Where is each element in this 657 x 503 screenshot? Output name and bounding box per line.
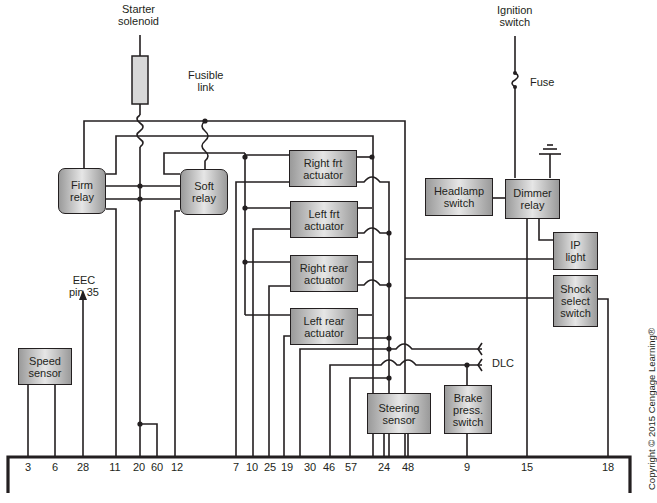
- dimmer-relay: Dimmer relay: [505, 179, 560, 219]
- pin-label: 3: [16, 461, 40, 473]
- pin-label: 48: [396, 461, 420, 473]
- left-rear-actuator: Left rear actuator: [290, 308, 358, 345]
- pin-label: 9: [455, 461, 479, 473]
- fusible-link-element: [132, 56, 148, 104]
- eec-pin-label: EEC pin 35: [69, 274, 99, 298]
- copyright-notice: Copyright © 2015 Cengage Learning®: [646, 328, 657, 490]
- firm-relay: Firm relay: [58, 168, 106, 214]
- right-rear-actuator: Right rear actuator: [290, 255, 358, 292]
- speed-sensor: Speed sensor: [18, 348, 72, 385]
- pin-label: 24: [372, 461, 396, 473]
- pin-label: 18: [596, 461, 620, 473]
- fuse-icon: [512, 73, 518, 87]
- fusible-link-icon: [137, 115, 143, 147]
- dlc-label: DLC: [492, 357, 514, 369]
- pin-label: 19: [275, 461, 299, 473]
- pin-label: 6: [43, 461, 67, 473]
- right-frt-actuator: Right frt actuator: [289, 150, 357, 187]
- fuse-label: Fuse: [530, 76, 554, 88]
- starter-solenoid-label: Starter solenoid: [118, 3, 159, 27]
- pin-label: 46: [317, 461, 341, 473]
- steering-sensor: Steering sensor: [367, 393, 431, 434]
- soft-relay: Soft relay: [180, 169, 228, 215]
- brake-press-switch: Brake press. switch: [444, 385, 492, 434]
- fusible-link-label: Fusible link: [188, 69, 223, 93]
- shock-select-switch: Shock select switch: [553, 275, 598, 327]
- ip-light: IP light: [553, 232, 598, 270]
- pin-label: 28: [71, 461, 95, 473]
- pin-label: 11: [103, 461, 127, 473]
- pin-label: 15: [515, 461, 539, 473]
- left-frt-actuator: Left frt actuator: [290, 201, 358, 238]
- pin-label: 57: [339, 461, 363, 473]
- pin-label: 12: [165, 461, 189, 473]
- headlamp-switch: Headlamp switch: [425, 178, 493, 216]
- ignition-switch-label: Ignition switch: [497, 4, 532, 28]
